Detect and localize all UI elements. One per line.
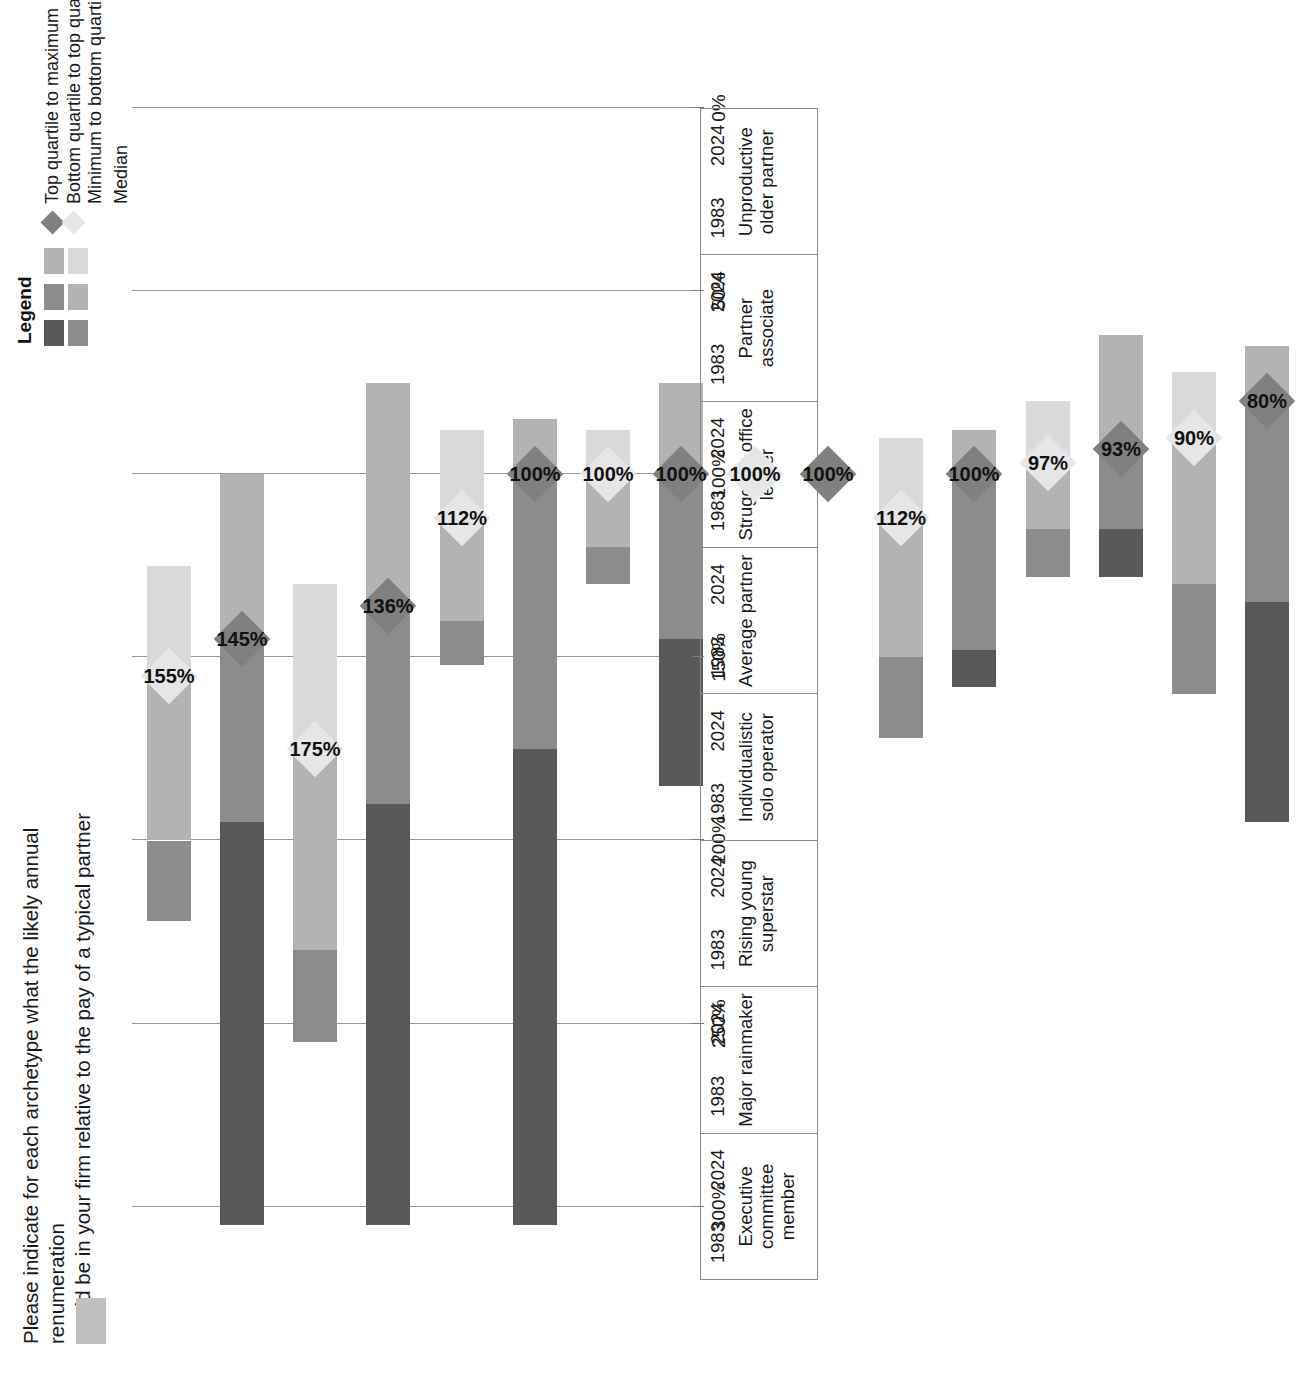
legend-swatches-light [42,248,88,274]
bar-2024-individualistic-solo-operator [659,108,703,1280]
year-label-1983: 1983 [707,474,729,547]
legend-swatch-bottom-to-top-2024 [44,284,64,310]
median-value-label: 100% [509,463,560,486]
segment-top-quartile-to-maximum [659,639,703,786]
bar-1983-partner-associate [1026,108,1070,1280]
legend: Legend [14,16,132,346]
category-cell-unproductive-older-partner: 19832024Unproductive older partner [700,108,818,255]
median-value-label: 145% [216,628,267,651]
median-value-label: 97% [1028,452,1068,475]
median-value-label: 155% [143,664,194,687]
year-label-2024: 2024 [707,695,729,768]
bar-2024-struggling-office-leader [952,108,996,1280]
category-name-label: Individualistic solo operator [735,695,817,840]
median-value-label: 93% [1101,437,1141,460]
segment-bottom-to-top-quartile [293,749,337,950]
category-cell-major-rainmaker: 19832024Major rainmaker [700,987,818,1133]
year-label-1983: 1983 [707,182,729,255]
category-name-label: Unproductive older partner [735,109,817,254]
category-year-row: 19832024 [701,695,735,840]
median-value-label: 100% [949,463,1000,486]
category-name-label: Average partner [735,548,817,693]
legend-labels: Top quartile to maximum Bottom quartile … [42,0,132,204]
chart-title-line-2: would be in your firm relative to the pa… [70,704,96,1344]
category-cell-partner-associate: 19832024Partner associate [700,255,818,401]
category-name-label: Executive committee member [735,1134,817,1279]
category-year-row: 19832024 [701,841,735,986]
segment-top-quartile-to-maximum [220,822,264,1225]
legend-median-diamond-1983 [61,210,85,234]
segment-top-quartile-to-maximum [952,650,996,687]
category-cell-executive-committee-member: 19832024Executive committee member [700,1134,818,1280]
category-year-row: 19832024 [701,255,735,400]
bar-1983-rising-young-superstar [440,108,484,1280]
plot-area: 155%145%175%136%112%100%100%100%100%100%… [132,108,692,1280]
bar-1983-individualistic-solo-operator [586,108,630,1280]
year-label-2024: 2024 [707,109,729,182]
year-label-2024: 2024 [707,402,729,475]
legend-label-min-to-bottom: Minimum to bottom quartile [85,0,107,204]
legend-swatch-top-to-max-2024 [44,320,64,346]
category-year-row: 19832024 [701,548,735,693]
median-value-label: 80% [1247,390,1287,413]
bar-2024-partner-associate [1099,108,1143,1280]
year-label-1983: 1983 [707,328,729,401]
legend-swatch-bottom-to-top-1983 [68,284,88,310]
segment-top-quartile-to-maximum [366,804,410,1225]
legend-swatch-min-to-bottom-1983 [68,248,88,274]
year-label-2024: 2024 [707,841,729,914]
bar-1983-unproductive-older-partner [1172,108,1216,1280]
median-value-label: 100% [583,463,634,486]
segment-min-to-bottom-quartile [366,383,410,606]
legend-median-row-1983 [65,214,82,238]
median-value-label: 100% [802,463,853,486]
year-label-1983: 1983 [707,1206,729,1279]
year-label-1983: 1983 [707,1060,729,1133]
legend-median-row-2024 [44,214,61,238]
segment-bottom-to-top-quartile [1245,401,1289,602]
median-value-label: 175% [290,737,341,760]
segment-top-quartile-to-maximum [1026,529,1070,577]
median-value-label: 100% [656,463,707,486]
category-cell-rising-young-superstar: 19832024Rising young superstar [700,841,818,987]
bar-1983-major-rainmaker [293,108,337,1280]
segment-top-quartile-to-maximum [1245,602,1289,822]
legend-swatches-median [42,214,82,238]
year-label-2024: 2024 [707,1134,729,1207]
legend-swatch-top-to-max-1983 [68,320,88,346]
legend-swatches-mid [42,284,88,310]
bar-2024-unproductive-older-partner [1245,108,1289,1280]
year-label-1983: 1983 [707,767,729,840]
bar-rows: 155%145%175%136%112%100%100%100%100%100%… [132,108,692,1280]
segment-bottom-to-top-quartile [366,606,410,804]
bar-2024-rising-young-superstar [513,108,557,1280]
year-label-1983: 1983 [707,914,729,987]
median-value-label: 90% [1174,426,1214,449]
legend-swatch-row-light-2024 [44,248,64,274]
category-year-row: 19832024 [701,987,735,1132]
category-cell-average-partner: 19832024Average partner [700,548,818,694]
category-name-label: Major rainmaker [735,987,817,1132]
category-name-label: Rising young superstar [735,841,817,986]
category-year-row: 19832024 [701,109,735,254]
legend-heading: Legend [14,16,36,344]
segment-top-quartile-to-maximum [440,621,484,665]
median-value-label: 112% [876,507,926,530]
bar-1983-struggling-office-leader [879,108,923,1280]
segment-top-quartile-to-maximum [1172,584,1216,694]
bar-2024-executive-committee-member [220,108,264,1280]
chart-title: Please indicate for each archetype what … [18,704,96,1344]
chart-title-line-1: Please indicate for each archetype what … [18,704,70,1344]
legend-label-median: Median [111,0,133,204]
year-label-1983: 1983 [707,621,729,694]
segment-top-quartile-to-maximum [879,657,923,738]
median-value-label: 112% [437,507,487,530]
segment-top-quartile-to-maximum [293,950,337,1042]
legend-swatch-min-to-bottom-2024 [44,248,64,274]
category-cell-individualistic-solo-operator: 19832024Individualistic solo operator [700,695,818,841]
category-name-label: Partner associate [735,255,817,400]
legend-swatches [42,320,88,346]
legend-label-top-to-max: Top quartile to maximum [42,0,64,204]
legend-swatch-row-mid-1983 [68,284,88,310]
